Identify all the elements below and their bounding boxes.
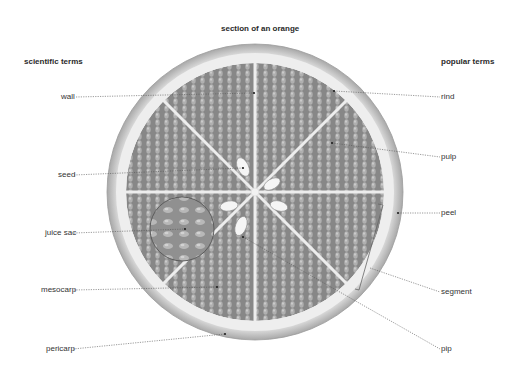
label-juice-sac: juice sac (45, 228, 76, 238)
label-pulp: pulp (441, 152, 456, 162)
label-seed: seed (58, 170, 75, 180)
label-pericarp: pericarp (46, 344, 75, 354)
label-pip: pip (441, 344, 452, 354)
orange-section-illustration (0, 0, 520, 373)
label-mesocarp: mesocarp (41, 285, 76, 295)
label-segment: segment (441, 287, 472, 297)
label-peel: peel (441, 208, 456, 218)
label-rind: rind (441, 92, 454, 102)
label-wall: wall (61, 92, 75, 102)
